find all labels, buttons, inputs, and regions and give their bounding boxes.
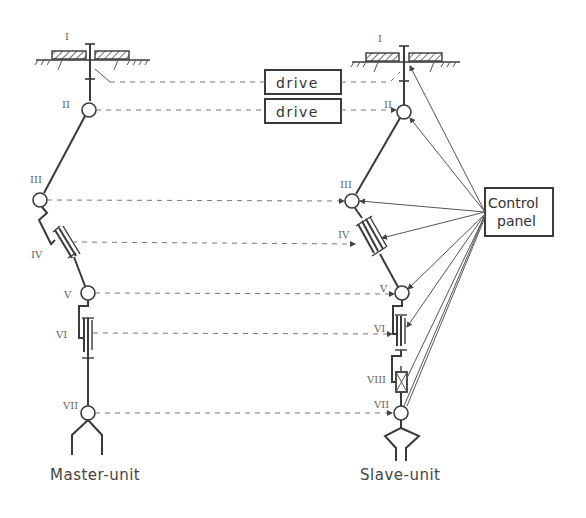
drive-box-2: drive (265, 99, 341, 123)
master-unit: I II III IV V VI VII Master-unit (30, 31, 150, 484)
slave-base-mount (351, 53, 460, 72)
slave-unit-caption: Slave-unit (360, 466, 440, 484)
master-label-vii: VII (62, 400, 78, 411)
control-panel-line2: panel (497, 213, 536, 229)
slave-gripper-left (385, 420, 401, 461)
master-label-iv: IV (31, 249, 43, 260)
master-base-mount (35, 51, 150, 70)
slave-joint-v (395, 286, 409, 300)
slave-gripper-right (401, 428, 419, 461)
master-label-v: V (63, 289, 72, 300)
master-slave-signal-links (47, 72, 400, 413)
control-panel-line1: Control (488, 195, 539, 211)
master-gripper-left (72, 420, 88, 455)
slave-joint-iv (356, 216, 387, 256)
slave-unit: I II III IV V VI VIII VII Slave-unit (338, 33, 460, 484)
manipulator-diagram: I II III IV V VI VII Master-unit drive d… (0, 0, 586, 518)
slave-label-viii: VIII (366, 374, 386, 385)
slave-joint-vii (394, 406, 408, 420)
drive-box-1: drive (265, 70, 341, 94)
slave-label-ii: II (384, 99, 392, 110)
slave-label-i: I (378, 33, 382, 44)
master-label-i: I (65, 31, 69, 42)
control-panel-lines (360, 66, 486, 406)
slave-label-iv: IV (338, 229, 350, 240)
drive-box-2-label: drive (276, 104, 319, 120)
slave-label-vi: VI (373, 323, 385, 334)
master-gripper-right (88, 420, 102, 455)
slave-label-v: V (379, 283, 388, 294)
master-joint-ii (82, 103, 96, 117)
drive-box-1-label: drive (276, 75, 319, 91)
control-panel: Control panel (485, 188, 553, 236)
master-joint-iii (33, 193, 47, 207)
slave-label-vii: VII (373, 399, 389, 410)
master-label-iii: III (30, 174, 42, 185)
slave-label-iii: III (340, 179, 352, 190)
master-unit-caption: Master-unit (50, 466, 140, 484)
master-joint-v (81, 286, 95, 300)
master-label-ii: II (62, 99, 70, 110)
master-label-vi: VI (55, 329, 67, 340)
slave-joint-vi (395, 315, 407, 350)
master-joint-vii (81, 406, 95, 420)
slave-joint-iii (345, 194, 359, 208)
slave-joint-viii (396, 366, 407, 392)
slave-joint-ii (397, 105, 411, 119)
